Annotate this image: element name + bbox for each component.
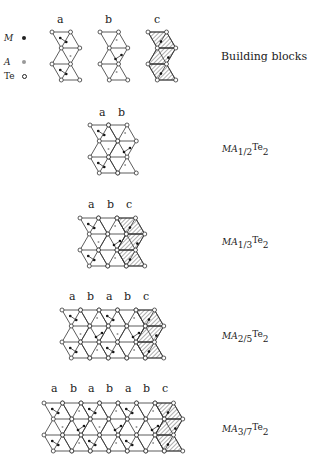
lattice-diagram bbox=[0, 0, 312, 466]
